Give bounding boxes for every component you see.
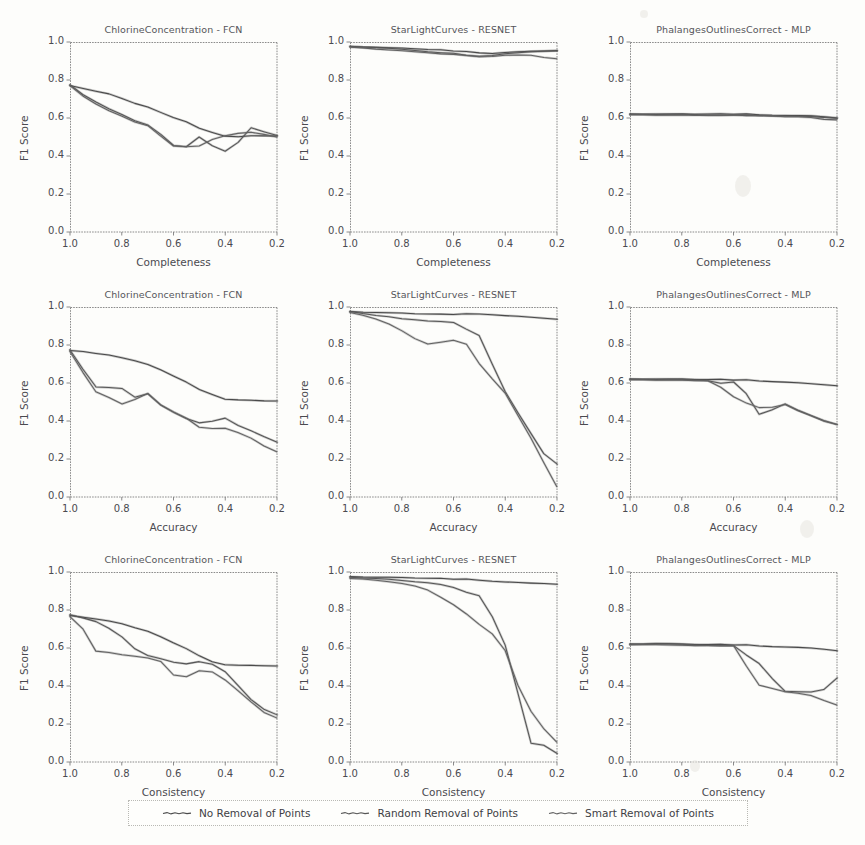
tick-marks <box>627 307 838 501</box>
series-line <box>630 379 837 425</box>
legend-entry[interactable]: No Removal of Points <box>162 807 310 819</box>
y-tick-label: 0.2 <box>594 717 624 728</box>
x-tick-label: 0.2 <box>820 238 854 249</box>
y-tick-label: 0.6 <box>594 376 624 387</box>
x-tick-label: 0.8 <box>105 238 139 249</box>
y-tick-label: 0.8 <box>314 73 344 84</box>
legend-line-swatch <box>162 809 192 817</box>
scan-artifact <box>690 760 700 772</box>
axis-frame <box>631 573 838 763</box>
plot-area <box>70 307 279 499</box>
y-tick-label: 0.2 <box>314 452 344 463</box>
axis-frame <box>71 573 278 763</box>
y-axis-label: F1 Score <box>578 381 590 426</box>
y-tick-label: 0.4 <box>314 414 344 425</box>
legend-line-swatch <box>340 809 370 817</box>
tick-marks <box>347 42 558 236</box>
series-line <box>630 380 837 425</box>
y-tick-label: 0.0 <box>34 490 64 501</box>
chart-legend: No Removal of PointsRandom Removal of Po… <box>128 800 748 826</box>
x-tick-label: 0.6 <box>437 238 471 249</box>
chart-title: PhalangesOutlinesCorrect - MLP <box>630 554 837 565</box>
series-line-halo <box>70 86 277 147</box>
x-tick-label: 0.4 <box>488 503 522 514</box>
series-line <box>350 313 557 487</box>
legend-line-swatch <box>548 809 578 817</box>
y-tick-label: 0.8 <box>594 73 624 84</box>
chart-panel: StarLightCurves - RESNETF1 Score0.00.20.… <box>288 24 571 288</box>
x-tick-label: 0.6 <box>717 238 751 249</box>
series-line <box>70 350 277 442</box>
chart-title: ChlorineConcentration - FCN <box>70 289 277 300</box>
y-tick-label: 0.2 <box>314 717 344 728</box>
series-line-halo <box>70 86 277 137</box>
x-tick-label: 0.2 <box>820 503 854 514</box>
y-tick-label: 0.4 <box>594 149 624 160</box>
y-tick-label: 0.4 <box>34 679 64 690</box>
x-tick-label: 0.6 <box>437 503 471 514</box>
chart-title: StarLightCurves - RESNET <box>350 24 557 35</box>
y-tick-label: 0.8 <box>314 603 344 614</box>
x-tick-label: 0.4 <box>768 768 802 779</box>
x-axis-label: Completeness <box>630 256 837 268</box>
series-line-halo <box>630 645 837 705</box>
y-tick-label: 1.0 <box>594 565 624 576</box>
axis-frame <box>351 43 558 233</box>
x-tick-label: 0.6 <box>157 503 191 514</box>
x-axis-label: Consistency <box>630 786 837 798</box>
scan-artifact <box>800 520 814 538</box>
scan-artifact <box>640 10 648 18</box>
x-tick-label: 0.4 <box>488 768 522 779</box>
tick-marks <box>347 572 558 766</box>
chart-title: PhalangesOutlinesCorrect - MLP <box>630 289 837 300</box>
chart-title: ChlorineConcentration - FCN <box>70 554 277 565</box>
tick-marks <box>67 572 278 766</box>
legend-label: Smart Removal of Points <box>585 807 714 819</box>
x-tick-label: 1.0 <box>53 503 87 514</box>
y-tick-label: 0.0 <box>314 755 344 766</box>
x-axis-label: Consistency <box>350 786 557 798</box>
y-tick-label: 0.6 <box>314 111 344 122</box>
plot-area <box>350 42 559 234</box>
y-tick-label: 0.4 <box>594 414 624 425</box>
y-tick-label: 0.4 <box>594 679 624 690</box>
x-axis-label: Consistency <box>70 786 277 798</box>
tick-marks <box>627 42 838 236</box>
series-line <box>350 579 557 742</box>
series-line <box>630 643 837 691</box>
x-tick-label: 0.4 <box>208 238 242 249</box>
chart-panel: ChlorineConcentration - FCNF1 Score0.00.… <box>8 554 291 818</box>
y-tick-label: 0.0 <box>314 490 344 501</box>
y-tick-label: 0.4 <box>34 149 64 160</box>
chart-panel: ChlorineConcentration - FCNF1 Score0.00.… <box>8 24 291 288</box>
y-tick-label: 0.2 <box>594 187 624 198</box>
x-tick-label: 0.8 <box>665 503 699 514</box>
tick-marks <box>627 572 838 766</box>
series-line-halo <box>630 643 837 691</box>
y-tick-label: 0.8 <box>314 338 344 349</box>
y-axis-label: F1 Score <box>18 116 30 161</box>
legend-entry[interactable]: Smart Removal of Points <box>548 807 714 819</box>
x-tick-label: 1.0 <box>333 503 367 514</box>
y-tick-label: 0.2 <box>594 452 624 463</box>
x-axis-label: Accuracy <box>70 521 277 533</box>
y-tick-label: 0.0 <box>34 755 64 766</box>
axis-frame <box>631 308 838 498</box>
y-tick-label: 0.2 <box>314 187 344 198</box>
figure-canvas: ChlorineConcentration - FCNF1 Score0.00.… <box>0 0 865 845</box>
y-tick-label: 1.0 <box>594 35 624 46</box>
axis-frame <box>351 308 558 498</box>
legend-entry[interactable]: Random Removal of Points <box>340 807 518 819</box>
x-tick-label: 1.0 <box>53 238 87 249</box>
y-tick-label: 0.2 <box>34 717 64 728</box>
y-tick-label: 0.6 <box>594 111 624 122</box>
x-axis-label: Completeness <box>70 256 277 268</box>
x-tick-label: 0.8 <box>665 238 699 249</box>
tick-marks <box>67 307 278 501</box>
y-axis-label: F1 Score <box>298 646 310 691</box>
y-tick-label: 1.0 <box>34 300 64 311</box>
x-tick-label: 1.0 <box>613 238 647 249</box>
x-tick-label: 0.4 <box>488 238 522 249</box>
x-tick-label: 0.2 <box>820 768 854 779</box>
x-tick-label: 0.8 <box>385 768 419 779</box>
